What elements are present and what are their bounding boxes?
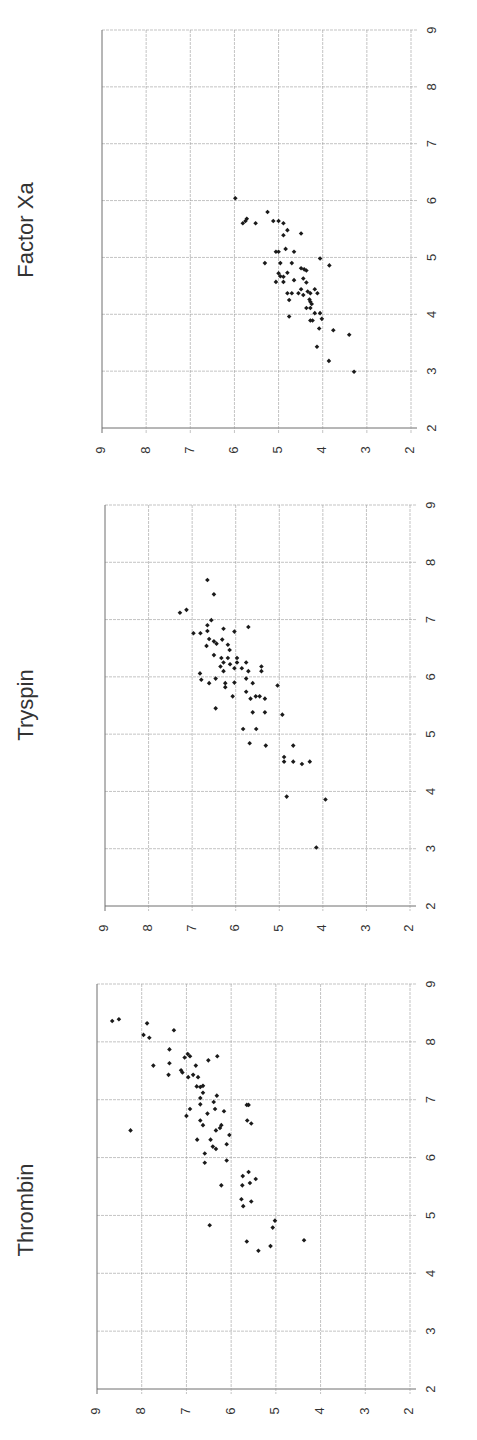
data-point-marker xyxy=(221,626,226,631)
data-point-marker xyxy=(296,291,301,296)
x-tick-label: 6 xyxy=(423,1154,438,1161)
data-point-marker xyxy=(151,1063,156,1068)
data-point-marker xyxy=(219,656,224,661)
data-point-marker xyxy=(184,1114,189,1119)
data-point-marker xyxy=(147,1036,152,1041)
data-point-marker xyxy=(244,1239,249,1244)
data-point-marker xyxy=(263,261,268,266)
data-point-marker xyxy=(232,666,237,671)
data-points xyxy=(178,578,328,850)
data-point-marker xyxy=(248,696,253,701)
data-point-marker xyxy=(257,694,262,699)
data-point-marker xyxy=(117,1017,122,1022)
data-points xyxy=(233,196,356,374)
data-point-marker xyxy=(331,328,336,333)
data-point-marker xyxy=(212,653,217,658)
data-point-marker xyxy=(282,755,287,760)
data-point-marker xyxy=(206,1058,211,1063)
data-point-marker xyxy=(249,1199,254,1204)
scatter-figure: Factor Xa 23456789 23456789 Tryspin 2345… xyxy=(0,0,477,1440)
data-point-marker xyxy=(222,1109,227,1114)
x-tick-label: 4 xyxy=(423,1270,438,1277)
data-point-marker xyxy=(195,1137,200,1142)
x-tick-label: 9 xyxy=(423,980,438,987)
data-point-marker xyxy=(276,249,281,254)
data-point-marker xyxy=(273,1218,278,1223)
y-tick-label: 2 xyxy=(401,1407,416,1414)
data-point-marker xyxy=(274,280,279,285)
data-points xyxy=(110,1017,306,1253)
data-point-marker xyxy=(315,291,320,296)
data-point-marker xyxy=(281,233,286,238)
data-point-marker xyxy=(250,681,255,686)
data-point-marker xyxy=(213,1107,218,1112)
grid xyxy=(97,984,416,1394)
data-point-marker xyxy=(312,311,317,316)
data-point-marker xyxy=(224,1142,229,1147)
data-point-marker xyxy=(207,681,212,686)
y-tick-label: 6 xyxy=(226,446,241,453)
data-point-marker xyxy=(246,625,251,630)
data-point-marker xyxy=(301,293,306,298)
panel-tryspin: Tryspin 23456789 23456789 xyxy=(13,501,439,931)
data-point-marker xyxy=(235,660,240,665)
data-point-marker xyxy=(352,369,357,374)
data-point-marker xyxy=(202,1160,207,1165)
data-point-marker xyxy=(215,1054,220,1059)
y-tick-label: 7 xyxy=(178,1407,193,1414)
data-point-marker xyxy=(207,637,212,642)
data-point-marker xyxy=(315,344,320,349)
data-point-marker xyxy=(205,629,210,634)
data-point-marker xyxy=(202,1151,207,1156)
data-point-marker xyxy=(207,1223,212,1228)
data-point-marker xyxy=(167,1047,172,1052)
data-point-marker xyxy=(270,1225,275,1230)
data-point-marker xyxy=(287,314,292,319)
y-tick-label: 8 xyxy=(140,924,155,931)
data-point-marker xyxy=(323,797,328,802)
y-tick-label: 9 xyxy=(96,924,111,931)
y-axis-ticks: 23456789 xyxy=(96,924,416,931)
data-point-marker xyxy=(253,1177,258,1182)
data-point-marker xyxy=(253,694,258,699)
y-axis-ticks: 23456789 xyxy=(88,1407,416,1414)
data-point-marker xyxy=(256,1248,261,1253)
data-point-marker xyxy=(128,1128,133,1133)
data-point-marker xyxy=(209,618,214,623)
data-point-marker xyxy=(191,631,196,636)
x-tick-label: 7 xyxy=(423,616,438,623)
y-tick-label: 4 xyxy=(312,1407,327,1414)
data-point-marker xyxy=(214,1128,219,1133)
data-point-marker xyxy=(233,196,238,201)
x-tick-label: 5 xyxy=(423,1212,438,1219)
data-point-marker xyxy=(145,1021,150,1026)
data-point-marker xyxy=(182,1055,187,1060)
data-point-marker xyxy=(188,1107,193,1112)
data-point-marker xyxy=(239,1197,244,1202)
data-point-marker xyxy=(287,298,292,303)
data-point-marker xyxy=(268,1244,273,1249)
y-tick-label: 9 xyxy=(88,1407,103,1414)
data-point-marker xyxy=(282,759,287,764)
data-point-marker xyxy=(285,270,290,275)
data-point-marker xyxy=(241,1204,246,1209)
data-point-marker xyxy=(198,671,203,676)
data-point-marker xyxy=(248,1181,253,1186)
data-point-marker xyxy=(347,332,352,337)
data-point-marker xyxy=(199,677,204,682)
data-point-marker xyxy=(198,1102,203,1107)
data-point-marker xyxy=(290,261,295,266)
data-point-marker xyxy=(232,680,237,685)
data-point-marker xyxy=(263,743,268,748)
data-point-marker xyxy=(191,1073,196,1078)
data-point-marker xyxy=(227,648,232,653)
data-point-marker xyxy=(198,631,203,636)
data-point-marker xyxy=(253,221,258,226)
data-point-marker xyxy=(219,1183,224,1188)
x-tick-label: 9 xyxy=(423,501,438,508)
data-point-marker xyxy=(271,219,276,224)
data-point-marker xyxy=(172,1028,177,1033)
x-tick-label: 7 xyxy=(423,1096,438,1103)
x-tick-label: 8 xyxy=(423,1038,438,1045)
data-point-marker xyxy=(259,664,264,669)
